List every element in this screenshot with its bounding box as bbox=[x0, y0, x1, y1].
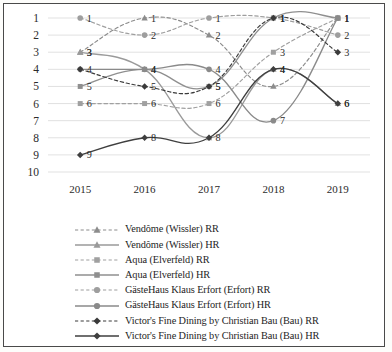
data-point-marker bbox=[78, 101, 83, 106]
data-label: 2 bbox=[216, 30, 221, 41]
series-line bbox=[80, 17, 338, 94]
legend-key-triangle-icon bbox=[74, 223, 120, 237]
y-tick-label: 8 bbox=[33, 132, 39, 144]
data-label: 5 bbox=[216, 81, 221, 92]
data-point-marker bbox=[141, 83, 147, 89]
legend-item[interactable]: Victor's Fine Dining by Christian Bau (B… bbox=[74, 313, 392, 328]
data-point-marker bbox=[271, 50, 276, 55]
data-label: 6 bbox=[151, 98, 156, 109]
data-point-marker bbox=[77, 66, 83, 72]
y-tick-label: 4 bbox=[33, 63, 39, 75]
data-label: 9 bbox=[87, 149, 92, 160]
legend-key-square-icon bbox=[74, 268, 120, 282]
data-label: 3 bbox=[87, 47, 92, 58]
data-label: 5 bbox=[87, 81, 92, 92]
y-tick-label: 5 bbox=[33, 80, 39, 92]
x-tick-label: 2019 bbox=[327, 183, 350, 195]
legend-item-label: Aqua (Elverfeld) RR bbox=[125, 255, 209, 265]
y-tick-label: 10 bbox=[28, 166, 40, 178]
chart-screenshot: 12345678910 3121346666315451112112444755… bbox=[0, 0, 392, 352]
legend-key-circle-icon bbox=[74, 283, 120, 297]
legend-item[interactable]: GästeHaus Klaus Erfort (Erfort) HR bbox=[74, 298, 392, 313]
legend-key-diamond-icon bbox=[74, 329, 120, 343]
data-label: 1 bbox=[216, 13, 221, 24]
data-point-marker bbox=[78, 84, 83, 89]
chart-legend: Vendôme (Wissler) RRVendôme (Wissler) HR… bbox=[0, 222, 392, 344]
legend-item[interactable]: Victor's Fine Dining by Christian Bau (B… bbox=[74, 328, 392, 343]
data-label: 2 bbox=[151, 30, 156, 41]
x-tick-label: 2018 bbox=[262, 183, 285, 195]
data-label: 2 bbox=[344, 30, 349, 41]
data-point-marker bbox=[206, 67, 212, 73]
line-chart-svg: 12345678910 3121346666315451112112444755… bbox=[6, 6, 382, 206]
data-label: 1 bbox=[280, 13, 285, 24]
legend-item[interactable]: Aqua (Elverfeld) HR bbox=[74, 268, 392, 283]
data-label: 1 bbox=[87, 13, 92, 24]
legend-item-label: Victor's Fine Dining by Christian Bau (B… bbox=[125, 331, 319, 341]
y-tick-label: 1 bbox=[33, 12, 39, 24]
data-label: 4 bbox=[87, 64, 92, 75]
data-point-marker bbox=[206, 32, 212, 38]
data-point-marker bbox=[77, 15, 83, 21]
data-label: 7 bbox=[280, 115, 285, 126]
legend-item-label: Vendôme (Wissler) HR bbox=[125, 240, 219, 250]
data-point-marker bbox=[142, 67, 148, 73]
data-label: 1 bbox=[151, 13, 156, 24]
data-point-marker bbox=[77, 49, 83, 55]
legend-key-circle-icon bbox=[74, 299, 120, 313]
legend-item[interactable]: GästeHaus Klaus Erfort (Erfort) RR bbox=[74, 283, 392, 298]
data-label: 4 bbox=[151, 64, 156, 75]
data-point-marker bbox=[206, 15, 212, 21]
legend-item[interactable]: Aqua (Elverfeld) RR bbox=[74, 252, 392, 267]
legend-item-label: Aqua (Elverfeld) HR bbox=[125, 270, 210, 280]
y-tick-label: 7 bbox=[33, 115, 39, 127]
data-point-marker bbox=[142, 101, 147, 106]
data-point-marker bbox=[271, 118, 277, 124]
data-label: 1 bbox=[344, 13, 349, 24]
data-point-marker bbox=[77, 152, 83, 158]
legend-item-label: GästeHaus Klaus Erfort (Erfort) RR bbox=[125, 285, 270, 295]
y-axis-tick-labels: 12345678910 bbox=[28, 12, 40, 178]
data-point-marker bbox=[335, 15, 341, 21]
legend-key-triangle-icon bbox=[74, 238, 120, 252]
x-tick-label: 2016 bbox=[134, 183, 157, 195]
legend-item-label: GästeHaus Klaus Erfort (Erfort) HR bbox=[125, 300, 271, 310]
legend-item-label: Victor's Fine Dining by Christian Bau (B… bbox=[125, 316, 319, 326]
data-label: 4 bbox=[216, 64, 221, 75]
data-label: 6 bbox=[216, 98, 221, 109]
data-label: 8 bbox=[151, 132, 156, 143]
data-label: 3 bbox=[280, 47, 285, 58]
plot-area: 12345678910 3121346666315451112112444755… bbox=[6, 6, 382, 206]
y-tick-label: 9 bbox=[33, 149, 39, 161]
data-point-marker bbox=[335, 49, 341, 55]
legend-item-label: Vendôme (Wissler) RR bbox=[125, 224, 219, 234]
legend-item[interactable]: Vendôme (Wissler) RR bbox=[74, 222, 392, 237]
legend-key-diamond-icon bbox=[74, 314, 120, 328]
data-label: 5 bbox=[151, 81, 156, 92]
data-label: 6 bbox=[344, 98, 349, 109]
data-label: 8 bbox=[216, 132, 221, 143]
y-tick-label: 3 bbox=[33, 46, 39, 58]
data-point-marker bbox=[142, 32, 148, 38]
y-tick-label: 6 bbox=[33, 98, 39, 110]
data-label: 4 bbox=[280, 64, 285, 75]
data-point-marker bbox=[207, 101, 212, 106]
legend-key-square-icon bbox=[74, 253, 120, 267]
series-line bbox=[80, 68, 338, 155]
data-label: 3 bbox=[344, 47, 349, 58]
y-tick-label: 2 bbox=[33, 29, 39, 41]
data-point-marker bbox=[141, 135, 147, 141]
x-tick-label: 2017 bbox=[198, 183, 221, 195]
x-tick-label: 2015 bbox=[69, 183, 92, 195]
legend-item[interactable]: Vendôme (Wissler) HR bbox=[74, 237, 392, 252]
data-label: 6 bbox=[87, 98, 92, 109]
data-point-marker bbox=[335, 32, 341, 38]
x-axis-tick-labels: 20152016201720182019 bbox=[69, 183, 349, 195]
